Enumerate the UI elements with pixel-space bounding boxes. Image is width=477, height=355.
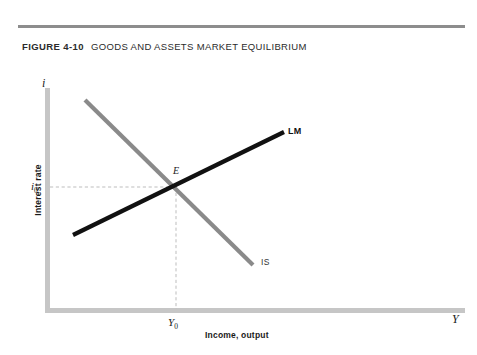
x-axis-tick-label: Y0 xyxy=(168,316,178,331)
is-curve xyxy=(85,100,253,265)
lm-curve-label: LM xyxy=(288,126,302,136)
x-tick-subscript: 0 xyxy=(174,322,178,331)
curves-layer xyxy=(0,0,477,355)
is-curve-label: IS xyxy=(261,257,270,267)
y-axis-tick-label: i0 xyxy=(31,180,38,195)
chart-plot-area: i Y Interest rate Income, output i0 Y0 E… xyxy=(0,0,477,355)
y-tick-subscript: 0 xyxy=(34,186,38,195)
lm-curve xyxy=(73,132,284,235)
figure-page: FIGURE 4-10GOODS AND ASSETS MARKET EQUIL… xyxy=(0,0,477,355)
equilibrium-point-label: E xyxy=(173,165,179,176)
